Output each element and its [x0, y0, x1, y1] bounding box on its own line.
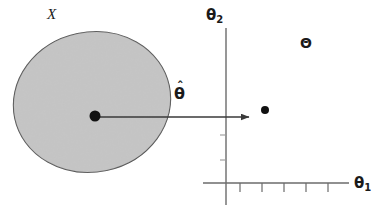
x-axis-symbol: θ	[354, 174, 364, 192]
y-axis-subscript: 2	[216, 14, 223, 25]
x-axis	[203, 183, 349, 192]
diagram-svg	[0, 0, 386, 215]
sample-space-label: X	[47, 7, 56, 22]
x-axis-subscript: 1	[364, 182, 371, 193]
estimator-label: ˆ θ	[174, 86, 185, 102]
y-axis-symbol: θ	[206, 6, 216, 24]
figure-canvas: X ˆ θ Θ θ2 θ1	[0, 0, 386, 215]
parameter-space-label: Θ	[300, 36, 312, 50]
sample-point-dot	[90, 111, 101, 122]
sample-space-region	[0, 17, 184, 187]
y-axis-label: θ2	[206, 8, 223, 23]
estimate-point-dot	[261, 106, 269, 114]
hat-accent: ˆ	[177, 80, 184, 93]
x-axis-label: θ1	[354, 176, 371, 191]
